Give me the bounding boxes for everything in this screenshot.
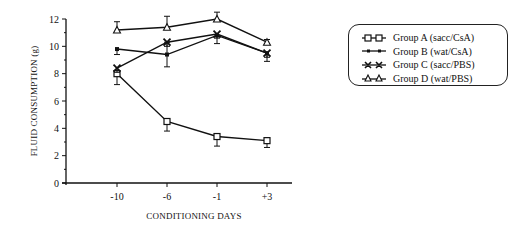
x-axis-title: CONDITIONING DAYS [146,211,241,221]
legend-item-group-c: Group C (sacc/PBS) [361,58,507,72]
open-square-marker-icon [361,33,387,43]
filled-dot-marker-icon [361,46,387,56]
x-marker-icon [361,60,387,70]
y-tick-label: 4 [54,123,59,134]
y-tick-label: 6 [54,96,59,107]
chart-legend: Group A (sacc/CsA) Group B (wat/CsA) Gro… [348,24,508,86]
filled-square-marker-icon [115,47,119,51]
y-tick-label: 2 [54,150,59,161]
x-tick-label: +3 [262,191,273,202]
legend-label: Group B (wat/CsA) [393,46,472,57]
x-tick-label: -10 [110,191,123,202]
legend-item-group-a: Group A (sacc/CsA) [361,31,507,45]
legend-item-group-b: Group B (wat/CsA) [361,45,507,59]
legend-label: Group C (sacc/PBS) [393,59,475,70]
legend-item-group-d: Group D (wat/PBS) [361,72,507,86]
y-tick-label: 0 [54,178,59,189]
y-tick-label: 10 [49,41,59,52]
series-d [114,12,271,45]
y-tick-label: 12 [49,14,59,25]
chart-series [114,12,271,147]
series-a [114,71,270,148]
x-tick-label: -1 [213,191,221,202]
open-square-marker-icon [214,134,220,140]
open-triangle-marker-icon [361,73,387,83]
legend-label: Group D (wat/PBS) [393,73,472,84]
series-line [117,74,267,141]
open-square-marker-icon [164,119,170,125]
filled-square-marker-icon [165,53,169,57]
x-tick-label: -6 [163,191,171,202]
y-axis-title: FLUID CONSUMPTION (g) [29,46,39,157]
legend-label: Group A (sacc/CsA) [393,32,474,43]
open-square-marker-icon [264,138,270,144]
y-tick-label: 8 [54,68,59,79]
